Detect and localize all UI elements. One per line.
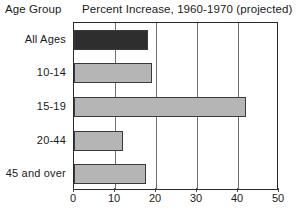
category-label-column: All Ages10-1415-1920-4445 and over <box>0 22 70 190</box>
x-tick-label: 10 <box>108 192 120 204</box>
x-tick-mark <box>237 188 238 192</box>
x-tick-label: 50 <box>272 192 284 204</box>
chart-title: Percent Increase, 1960-1970 (projected) <box>82 3 292 15</box>
category-label: All Ages <box>25 33 66 45</box>
x-tick-mark <box>278 188 279 192</box>
x-tick-label: 40 <box>231 192 243 204</box>
bar-20-44 <box>74 131 123 151</box>
bar-all-ages <box>74 30 148 50</box>
y-axis-title: Age Group <box>5 3 62 15</box>
chart-header: Age Group Percent Increase, 1960-1970 (p… <box>0 2 298 20</box>
category-label: 20-44 <box>37 134 66 146</box>
bar-10-14 <box>74 63 152 83</box>
x-tick-label: 30 <box>190 192 202 204</box>
x-tick-mark <box>73 188 74 192</box>
plot-area <box>73 22 278 190</box>
category-label: 45 and over <box>6 167 66 179</box>
bar-45-and-over <box>74 164 146 184</box>
x-tick-mark <box>114 188 115 192</box>
x-axis-tick-labels: 01020304050 <box>73 192 278 212</box>
x-tick-mark <box>196 188 197 192</box>
category-label: 10-14 <box>37 66 66 78</box>
bar-15-19 <box>74 97 246 117</box>
bar-chart: Age Group Percent Increase, 1960-1970 (p… <box>0 0 298 217</box>
category-label: 15-19 <box>37 100 66 112</box>
x-tick-mark <box>155 188 156 192</box>
x-tick-label: 0 <box>70 192 76 204</box>
x-tick-label: 20 <box>149 192 161 204</box>
